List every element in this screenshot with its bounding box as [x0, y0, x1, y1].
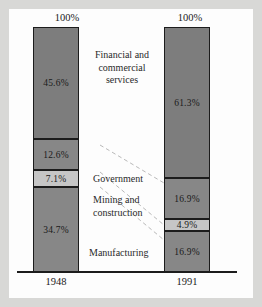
segment-1948-mining: 7.1% [34, 170, 78, 187]
category-label-manufacturing: Manufacturing [89, 247, 179, 260]
segment-1991-financial: 61.3% [165, 28, 209, 178]
segment-1948-government: 12.6% [34, 139, 78, 170]
segment-value-1948-financial: 45.6% [43, 78, 69, 88]
bar-1948: 45.6% 12.6% 7.1% 34.7% [33, 27, 79, 271]
segment-value-1991-mining: 4.9% [177, 220, 198, 230]
category-label-financial: Financial and commercial services [85, 49, 159, 87]
total-label-1991: 100% [148, 12, 232, 23]
tick-label-1991: 1991 [145, 276, 229, 287]
category-label-mining: Mining and construction [93, 194, 183, 219]
segment-1948-financial: 45.6% [34, 28, 78, 139]
tick-label-1948: 1948 [14, 276, 98, 287]
figure-root: 100% 100% 45.6% 12.6% 7.1% [0, 0, 262, 307]
segment-value-1948-mining: 7.1% [46, 174, 67, 184]
baseline-axis [17, 271, 237, 273]
chart-canvas: 100% 100% 45.6% 12.6% 7.1% [9, 9, 253, 298]
segment-1991-mining: 4.9% [165, 219, 209, 231]
total-label-1948: 100% [25, 12, 109, 23]
category-label-government: Government [93, 173, 183, 186]
segment-value-1948-government: 12.6% [43, 150, 69, 160]
segment-1948-manufacturing: 34.7% [34, 187, 78, 272]
segment-value-1991-financial: 61.3% [174, 98, 200, 108]
segment-value-1948-manufacturing: 34.7% [43, 225, 69, 235]
plot-area: 100% 100% 45.6% 12.6% 7.1% [9, 9, 253, 298]
bar-1991: 61.3% 16.9% 4.9% 16.9% [164, 27, 210, 271]
